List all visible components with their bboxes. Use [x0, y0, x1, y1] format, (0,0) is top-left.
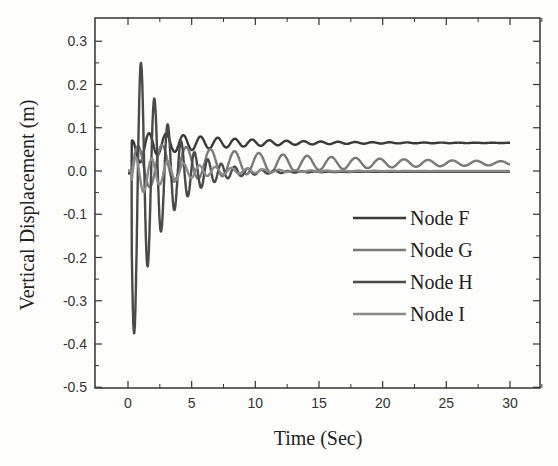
legend-label: Node H — [410, 271, 473, 293]
legend-label: Node F — [410, 207, 469, 229]
y-tick-label: 0.1 — [68, 120, 88, 136]
y-tick-label: -0.2 — [63, 250, 87, 266]
x-tick-label: 10 — [248, 395, 264, 411]
y-tick-label: 0.3 — [68, 33, 88, 49]
x-tick-label: 20 — [375, 395, 391, 411]
x-axis-title: Time (Sec) — [274, 427, 363, 450]
y-tick-label: 0.0 — [68, 163, 88, 179]
legend-item-node-g: Node G — [353, 239, 473, 261]
x-tick-label: 5 — [188, 395, 196, 411]
legend-label: Node G — [410, 239, 473, 261]
legend-item-node-i: Node I — [353, 303, 465, 325]
legend-item-node-h: Node H — [353, 271, 473, 293]
legend: Node FNode GNode HNode I — [353, 207, 473, 325]
y-tick-label: -0.5 — [63, 379, 87, 395]
y-tick-label: 0.2 — [68, 77, 88, 93]
legend-item-node-f: Node F — [353, 207, 469, 229]
x-tick-label: 30 — [502, 395, 518, 411]
x-tick-label: 25 — [439, 395, 455, 411]
line-chart: 051015202530 -0.5-0.4-0.3-0.2-0.10.00.10… — [0, 0, 558, 466]
x-axis: 051015202530 — [124, 18, 542, 411]
legend-label: Node I — [410, 303, 465, 325]
y-tick-label: -0.4 — [63, 336, 87, 352]
y-tick-label: -0.3 — [63, 293, 87, 309]
x-tick-label: 15 — [311, 395, 327, 411]
plot-frame — [95, 18, 540, 388]
x-tick-label: 0 — [124, 395, 132, 411]
y-tick-label: -0.1 — [63, 206, 87, 222]
y-axis-title: Vertical Displacement (m) — [16, 99, 39, 310]
